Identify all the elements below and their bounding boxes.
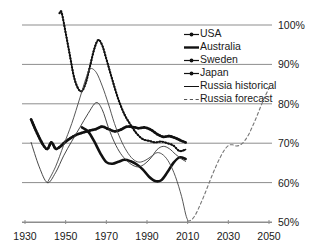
- series-marker: [150, 140, 152, 142]
- series-marker: [120, 106, 122, 108]
- series-marker: [165, 142, 167, 144]
- series-marker: [139, 136, 141, 138]
- series-marker: [92, 53, 94, 55]
- y-axis-tick-label: 60%: [278, 177, 299, 189]
- series-marker: [137, 134, 139, 136]
- series-marker: [90, 59, 92, 61]
- series-marker: [67, 139, 70, 142]
- series-marker: [60, 144, 63, 147]
- series-marker: [122, 111, 124, 113]
- series-marker: [170, 135, 173, 138]
- series-marker: [141, 138, 143, 140]
- series-marker: [133, 129, 135, 131]
- series-marker: [106, 60, 108, 62]
- series-line: [47, 68, 187, 220]
- series-marker: [177, 149, 179, 151]
- series-marker: [65, 37, 67, 39]
- series-marker: [167, 142, 169, 144]
- series-marker: [184, 141, 187, 144]
- series-marker: [32, 124, 35, 127]
- legend-item-label: Japan: [200, 66, 229, 79]
- series-marker: [126, 119, 128, 121]
- series-marker: [83, 131, 86, 134]
- legend-swatch-icon: [183, 27, 200, 40]
- series-marker: [70, 60, 72, 62]
- series-marker: [103, 51, 105, 53]
- series-marker: [64, 31, 66, 33]
- series-marker: [102, 48, 104, 50]
- series-marker: [62, 19, 64, 21]
- series-marker: [176, 137, 179, 140]
- series-marker: [134, 126, 137, 129]
- series-marker: [62, 16, 64, 18]
- series-marker: [60, 10, 62, 12]
- series-marker: [35, 129, 38, 132]
- chart-container: 50%60%70%80%90%100% 19301950197019902010…: [0, 0, 316, 252]
- series-marker: [128, 122, 130, 124]
- series-marker: [183, 149, 185, 151]
- series-marker: [31, 121, 34, 124]
- legend-item-label: Russia forecast: [200, 92, 272, 105]
- legend-item-usa[interactable]: USA: [183, 27, 276, 40]
- series-marker: [110, 74, 112, 76]
- series-marker: [61, 13, 63, 15]
- series-marker: [80, 132, 83, 135]
- series-marker: [63, 25, 65, 27]
- series-marker: [68, 51, 70, 53]
- legend-item-label: Sweden: [200, 53, 238, 66]
- y-axis-tick-label: 100%: [278, 19, 305, 31]
- series-marker: [156, 133, 159, 136]
- series-marker: [73, 75, 75, 77]
- series-marker: [69, 137, 72, 140]
- series-marker: [75, 84, 77, 86]
- series-marker: [39, 137, 42, 140]
- series-marker: [65, 34, 67, 36]
- y-axis-tick-label: 80%: [278, 98, 299, 110]
- series-marker: [151, 129, 154, 132]
- series-marker: [153, 131, 156, 134]
- legend-item-russia-forecast[interactable]: Russia forecast: [183, 92, 276, 105]
- series-marker: [146, 127, 149, 130]
- series-marker: [111, 130, 114, 133]
- series-marker: [33, 127, 36, 130]
- x-axis-tick-label: 1930: [13, 230, 36, 242]
- series-marker: [41, 143, 44, 146]
- legend-item-australia[interactable]: Australia: [183, 40, 276, 53]
- chart-legend: USAAustraliaSwedenJapanRussia historical…: [183, 27, 276, 105]
- series-marker: [95, 42, 97, 44]
- y-axis-tick-label: 50%: [278, 216, 299, 228]
- series-marker: [30, 118, 32, 121]
- series-marker: [121, 108, 123, 110]
- x-axis-tick-label: 2050: [257, 230, 280, 242]
- series-marker: [114, 130, 117, 133]
- series-marker: [159, 141, 161, 143]
- series-marker: [92, 129, 95, 132]
- series-marker: [173, 145, 175, 147]
- legend-swatch-icon: [183, 79, 200, 92]
- series-marker: [69, 54, 71, 56]
- series-marker: [37, 135, 40, 138]
- series-marker: [124, 114, 126, 116]
- series-marker: [175, 147, 177, 149]
- series-marker: [135, 132, 137, 134]
- series-marker: [117, 97, 119, 99]
- series-marker: [156, 141, 158, 143]
- series-marker: [120, 128, 123, 131]
- series-marker: [48, 144, 51, 147]
- series-marker: [116, 94, 118, 96]
- series-marker: [107, 66, 109, 68]
- series-marker: [143, 126, 146, 129]
- series-marker: [45, 148, 48, 151]
- series-marker: [95, 128, 98, 131]
- series-marker: [58, 12, 60, 14]
- legend-item-japan[interactable]: Japan: [183, 66, 276, 79]
- series-marker: [114, 89, 116, 91]
- series-marker: [137, 127, 140, 130]
- series-marker: [70, 63, 72, 65]
- series-marker: [147, 139, 149, 141]
- series-marker: [115, 91, 117, 93]
- legend-item-sweden[interactable]: Sweden: [183, 53, 276, 66]
- series-marker: [73, 78, 75, 80]
- series-marker: [63, 22, 65, 24]
- legend-item-russia-historical[interactable]: Russia historical: [183, 79, 276, 92]
